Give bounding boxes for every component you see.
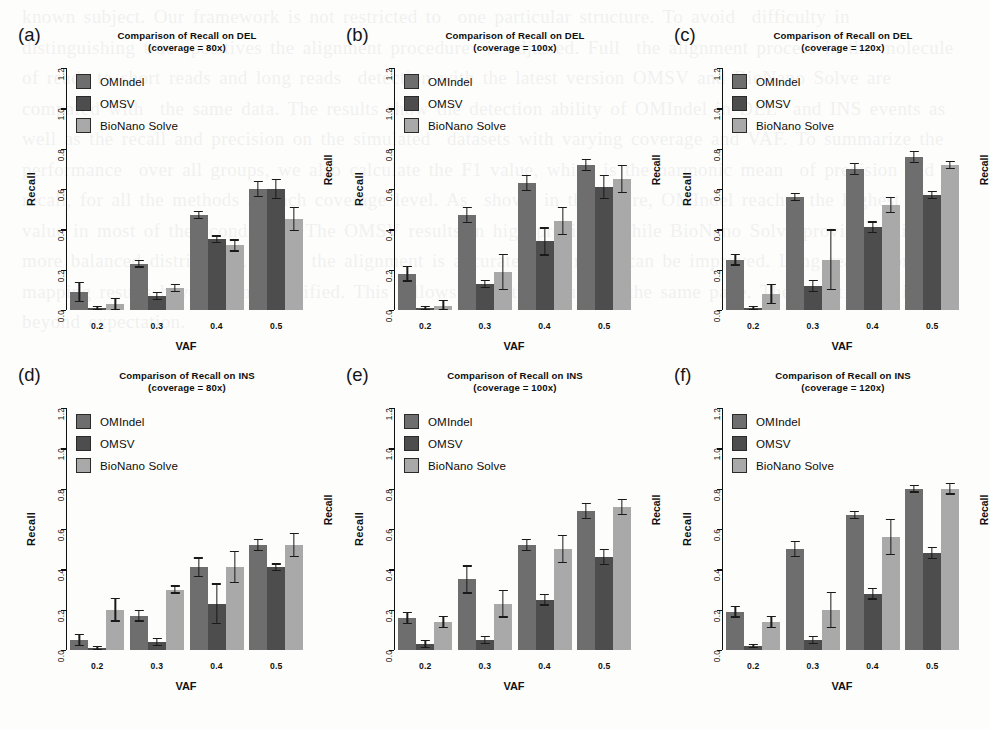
bar-omsv[interactable] <box>536 241 554 310</box>
legend-item-bionano-solve[interactable]: BioNano Solve <box>76 458 178 473</box>
error-bar <box>753 644 754 648</box>
bar-bionano-solve[interactable] <box>285 219 303 310</box>
bar-omindel[interactable] <box>249 189 267 310</box>
bar-bionano-solve[interactable] <box>106 610 124 650</box>
bar-omindel[interactable] <box>518 545 536 650</box>
legend-item-omindel[interactable]: OMIndel <box>76 414 178 429</box>
bar-omindel[interactable] <box>577 165 595 310</box>
legend-item-omindel[interactable]: OMIndel <box>404 74 506 89</box>
bar-omindel[interactable] <box>905 157 923 310</box>
bar-wrapper <box>822 610 840 650</box>
bar-omindel[interactable] <box>846 515 864 650</box>
bar-omindel[interactable] <box>70 640 88 650</box>
legend-item-omindel[interactable]: OMIndel <box>732 74 834 89</box>
bar-omindel[interactable] <box>786 549 804 650</box>
bar-omsv[interactable] <box>744 308 762 310</box>
bar-bionano-solve[interactable] <box>822 610 840 650</box>
bar-bionano-solve[interactable] <box>434 622 452 650</box>
bar-omindel[interactable] <box>249 545 267 650</box>
legend-item-omindel[interactable]: OMIndel <box>732 414 834 429</box>
bar-bionano-solve[interactable] <box>494 272 512 310</box>
bar-omindel[interactable] <box>726 612 744 650</box>
bar-omsv[interactable] <box>923 553 941 650</box>
bar-bionano-solve[interactable] <box>226 567 244 650</box>
x-axis-tick-label: 0.5 <box>270 661 283 671</box>
bar-omindel[interactable] <box>518 183 536 310</box>
legend-item-omsv[interactable]: OMSV <box>404 96 506 111</box>
bar-bionano-solve[interactable] <box>494 604 512 650</box>
bar-omsv[interactable] <box>88 308 106 310</box>
bar-omsv[interactable] <box>476 640 494 650</box>
legend-item-bionano-solve[interactable]: BioNano Solve <box>732 458 834 473</box>
bar-omindel[interactable] <box>458 579 476 650</box>
bar-omsv[interactable] <box>864 594 882 650</box>
legend-item-omsv[interactable]: OMSV <box>76 436 178 451</box>
bar-omsv[interactable] <box>416 308 434 310</box>
bar-bionano-solve[interactable] <box>762 622 780 650</box>
bar-omsv[interactable] <box>267 567 285 650</box>
bar-omsv[interactable] <box>923 195 941 310</box>
bar-bionano-solve[interactable] <box>941 165 959 310</box>
error-bar <box>198 557 199 577</box>
bar-omindel[interactable] <box>905 489 923 650</box>
bar-omindel[interactable] <box>70 292 88 310</box>
bar-omindel[interactable] <box>458 215 476 310</box>
bar-omindel[interactable] <box>190 567 208 650</box>
bar-omindel[interactable] <box>398 274 416 310</box>
bar-bionano-solve[interactable] <box>106 304 124 310</box>
error-bar <box>79 282 80 302</box>
bar-omindel[interactable] <box>398 618 416 650</box>
bar-bionano-solve[interactable] <box>941 489 959 650</box>
bar-omindel[interactable] <box>577 511 595 650</box>
bar-bionano-solve[interactable] <box>882 205 900 310</box>
bar-bionano-solve[interactable] <box>554 221 572 310</box>
bar-omsv[interactable] <box>267 189 285 310</box>
bar-omindel[interactable] <box>846 169 864 310</box>
bar-omsv[interactable] <box>595 187 613 310</box>
legend-item-omindel[interactable]: OMIndel <box>76 74 178 89</box>
bar-bionano-solve[interactable] <box>285 545 303 650</box>
bar-bionano-solve[interactable] <box>554 549 572 650</box>
bar-omsv[interactable] <box>744 646 762 650</box>
bar-bionano-solve[interactable] <box>166 288 184 310</box>
bar-omindel[interactable] <box>726 260 744 310</box>
bar-bionano-solve[interactable] <box>822 260 840 310</box>
bar-omsv[interactable] <box>416 644 434 650</box>
legend-item-omsv[interactable]: OMSV <box>732 436 834 451</box>
bar-omsv[interactable] <box>208 604 226 650</box>
legend-item-bionano-solve[interactable]: BioNano Solve <box>404 458 506 473</box>
bar-omsv[interactable] <box>148 296 166 310</box>
bar-omindel[interactable] <box>786 197 804 310</box>
bar-omsv[interactable] <box>595 557 613 650</box>
bar-omsv[interactable] <box>864 227 882 310</box>
bar-bionano-solve[interactable] <box>226 245 244 310</box>
bar-omsv[interactable] <box>476 284 494 310</box>
legend-item-omsv[interactable]: OMSV <box>76 96 178 111</box>
y-axis-tick: 0.4 <box>61 229 66 230</box>
y-axis-tick-label: 0.4 <box>712 229 722 241</box>
bar-omsv[interactable] <box>804 286 822 310</box>
bar-bionano-solve[interactable] <box>613 507 631 650</box>
legend-item-omindel[interactable]: OMIndel <box>404 414 506 429</box>
legend-item-bionano-solve[interactable]: BioNano Solve <box>404 118 506 133</box>
bar-omindel[interactable] <box>130 616 148 650</box>
bar-omindel[interactable] <box>190 215 208 310</box>
legend-item-omsv[interactable]: OMSV <box>404 436 506 451</box>
bar-wrapper <box>130 264 148 310</box>
bar-bionano-solve[interactable] <box>166 590 184 651</box>
bar-omsv[interactable] <box>536 600 554 650</box>
bar-bionano-solve[interactable] <box>762 294 780 310</box>
bar-bionano-solve[interactable] <box>434 306 452 310</box>
bar-omsv[interactable] <box>88 648 106 650</box>
bar-bionano-solve[interactable] <box>882 537 900 650</box>
bar-omsv[interactable] <box>208 239 226 310</box>
legend-item-bionano-solve[interactable]: BioNano Solve <box>732 118 834 133</box>
bar-omsv[interactable] <box>148 642 166 650</box>
legend-item-bionano-solve[interactable]: BioNano Solve <box>76 118 178 133</box>
bar-wrapper <box>148 296 166 310</box>
bar-omsv[interactable] <box>804 640 822 650</box>
legend-swatch-icon <box>732 118 747 133</box>
legend-item-omsv[interactable]: OMSV <box>732 96 834 111</box>
bar-omindel[interactable] <box>130 264 148 310</box>
bar-bionano-solve[interactable] <box>613 179 631 310</box>
